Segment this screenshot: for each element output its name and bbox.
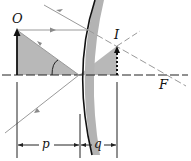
ray-arrow-icon	[56, 9, 63, 12]
dim-arrow-icon	[111, 143, 116, 147]
image-label: I	[113, 27, 120, 42]
image-distance-label: q	[94, 137, 102, 151]
focal-point-label: F	[158, 77, 169, 92]
ray-arrow-icon	[50, 28, 56, 33]
reflected-ray-up	[44, 5, 88, 30]
ray-diagram: O I F p q	[0, 0, 191, 161]
dim-arrow-icon	[74, 143, 79, 147]
dim-arrow-icon	[18, 143, 23, 147]
ray-arrow-icon	[34, 108, 40, 113]
object-label: O	[12, 11, 23, 26]
dim-arrow-icon	[81, 143, 86, 147]
virtual-ray-upper	[117, 31, 140, 46]
object-distance-label: p	[42, 137, 50, 151]
reflected-ray-down	[5, 75, 79, 133]
